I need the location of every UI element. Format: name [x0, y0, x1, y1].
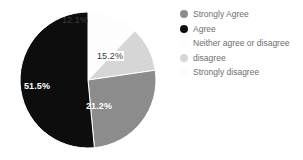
legend-label-strongly-disagree: Strongly disagree	[193, 68, 259, 77]
legend-label-neither-agree-or-disagree: Neither agree or disagree	[193, 39, 289, 48]
pie-slice-agree[interactable]	[20, 12, 94, 148]
legend-swatch-icon-strongly-disagree	[180, 69, 188, 77]
chart-legend: Strongly Agree Agree Neither agree or di…	[180, 7, 303, 80]
legend-swatch-icon-strongly-agree	[180, 10, 188, 18]
pie-chart-svg	[0, 0, 180, 160]
legend-swatch-icon-neither-agree-or-disagree	[180, 39, 188, 47]
legend-item-strongly-disagree[interactable]: Strongly disagree	[180, 65, 303, 80]
pie-chart-figure: 12.1% 15.2% 21.2% 51.5% Strongly Agree A…	[0, 0, 303, 160]
legend-label-disagree: disagree	[193, 54, 226, 63]
legend-item-neither-agree-or-disagree[interactable]: Neither agree or disagree	[180, 36, 303, 51]
pie-chart-plot-area: 12.1% 15.2% 21.2% 51.5%	[0, 0, 180, 160]
legend-item-agree[interactable]: Agree	[180, 22, 303, 37]
pie-slice-strongly-agree[interactable]	[88, 70, 156, 148]
legend-swatch-icon-agree	[180, 25, 188, 33]
legend-swatch-icon-disagree	[180, 54, 188, 62]
legend-label-agree: Agree	[193, 25, 216, 34]
legend-label-strongly-agree: Strongly Agree	[193, 10, 249, 19]
legend-item-strongly-agree[interactable]: Strongly Agree	[180, 7, 303, 22]
legend-item-disagree[interactable]: disagree	[180, 51, 303, 66]
